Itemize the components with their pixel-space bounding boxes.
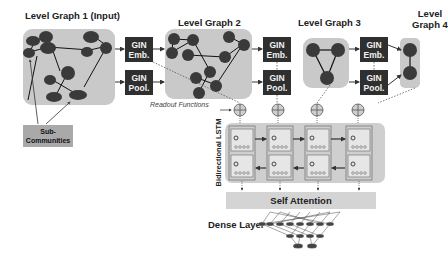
dense-layer-network (258, 212, 340, 249)
level-graph-1-nodes (23, 31, 112, 102)
flow-arrows (115, 45, 401, 85)
lstm-column-3 (305, 126, 331, 180)
readout-sum-nodes (234, 104, 364, 124)
plus-circle-icon (311, 104, 323, 116)
plus-circle-icon (352, 104, 364, 116)
lstm-column-4 (346, 126, 372, 180)
lstm-column-1 (229, 126, 255, 180)
plus-circle-icon (272, 104, 284, 116)
level-graph-3-graph (306, 43, 345, 85)
level-graph-4-graph (403, 43, 417, 80)
level-graph-2-edges (172, 37, 243, 92)
plus-circle-icon (234, 104, 246, 116)
lstm-column-2 (267, 126, 293, 180)
lstm-cells (229, 126, 372, 190)
